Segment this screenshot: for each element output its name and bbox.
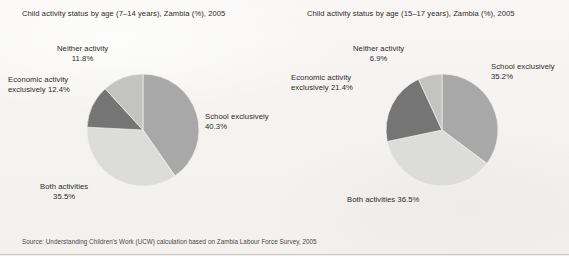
slice-label-line2: 35.5% [40, 192, 88, 202]
slice-label-line2: 6.9% [353, 54, 404, 64]
slice-label-line1: Economic activity [8, 75, 70, 85]
slice-label-line1: School exclusively [491, 62, 555, 72]
slice-label-line1: Neither activity [57, 44, 108, 54]
source-note: Source: Understanding Children's Work (U… [22, 238, 317, 246]
slice-label-line1: Economic activity [291, 73, 353, 83]
slice-label-neither-activity-left: Neither activity 11.8% [57, 44, 108, 63]
slice-label-line2: 11.8% [57, 54, 108, 64]
slice-label-line1: Both activities [40, 182, 88, 192]
slice-label-line1: Neither activity [353, 44, 404, 54]
slice-label-line1: School exclusively [205, 112, 269, 122]
slice-label-both-activities-right: Both activities 36.5% [347, 195, 419, 205]
slice-label-line2: 35.2% [491, 72, 555, 82]
slice-label-school-exclusively-left: School exclusively 40.3% [205, 112, 269, 131]
chart-panel-right: Child activity status by age (15–17 year… [285, 0, 569, 226]
slice-label-line2: exclusively 21.4% [291, 83, 353, 93]
slice-label-both-activities-left: Both activities 35.5% [40, 182, 88, 201]
slice-label-line1: Both activities 36.5% [347, 195, 419, 205]
slice-label-school-exclusively-right: School exclusively 35.2% [491, 62, 555, 81]
figure-container: Child activity status by age (7–14 years… [0, 0, 569, 260]
slice-label-neither-activity-right: Neither activity 6.9% [353, 44, 404, 63]
slice-label-economic-activity-left: Economic activity exclusively 12.4% [8, 75, 70, 94]
bottom-margin [0, 256, 569, 260]
slice-label-economic-activity-right: Economic activity exclusively 21.4% [291, 73, 353, 92]
slice-label-line2: exclusively 12.4% [8, 85, 70, 95]
bottom-divider [0, 254, 569, 255]
pie-chart-right [285, 0, 569, 226]
pie-svg-right [285, 0, 569, 226]
slice-label-line2: 40.3% [205, 122, 269, 132]
chart-panel-left: Child activity status by age (7–14 years… [0, 0, 284, 226]
